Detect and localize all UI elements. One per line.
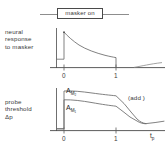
probe-threshold-ylabel-line-1: probe	[5, 98, 53, 105]
probe-threshold-ylabel-line-3: Δp	[5, 113, 53, 120]
masker-on-bar: masker on	[0, 4, 165, 22]
neural-response-ylabel-line-1: neural	[5, 28, 53, 35]
curve-label-am2: AM₂	[66, 87, 76, 95]
neural-onset-peak-marker	[63, 31, 65, 33]
curve-label-am2-sub: M₂	[71, 91, 77, 96]
probe-threshold-ylabel-line-2: threshold	[5, 105, 53, 112]
curve-label-am1-base: A	[66, 104, 71, 111]
neural-response-plot	[50, 26, 165, 72]
neural-xtick-label-1: 1	[114, 72, 118, 79]
figure-root: masker on neural response to masker	[0, 0, 165, 151]
neural-response-ylabel-line-3: to masker	[5, 43, 53, 50]
neural-response-ylabel: neural response to masker	[5, 28, 53, 50]
probe-xaxis-label: tp	[150, 132, 154, 140]
neural-response-curve	[64, 32, 116, 67]
probe-xaxis-label-sub: p	[152, 136, 155, 141]
neural-recovery-ramp	[134, 63, 162, 68]
panel-neural-response: neural response to masker 0 1	[0, 26, 165, 82]
add-note-label: (add )	[128, 94, 145, 101]
curve-label-am1: AM₁	[66, 104, 76, 112]
masker-on-label: masker on	[65, 10, 94, 17]
curve-label-am2-base: A	[66, 87, 71, 94]
neural-response-ylabel-line-2: response	[5, 35, 53, 42]
curve-label-am1-sub: M₁	[71, 108, 76, 113]
probe-xtick-label-1: 1	[114, 135, 118, 142]
masker-on-box: masker on	[57, 8, 103, 19]
panel-probe-threshold: probe threshold Δp AM₂ AM₁	[0, 86, 165, 151]
masker-lead-line-right	[103, 14, 129, 15]
probe-xtick-label-0: 0	[62, 135, 66, 142]
neural-xtick-label-0: 0	[62, 72, 66, 79]
probe-threshold-ylabel: probe threshold Δp	[5, 98, 53, 120]
masker-lead-line-left	[40, 14, 57, 15]
